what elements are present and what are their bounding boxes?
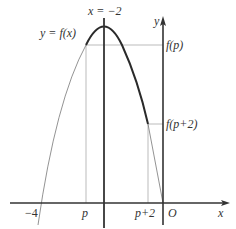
y-axis-label: y	[153, 14, 160, 28]
function-label: y = f(x)	[39, 26, 76, 40]
axis-of-symmetry-label: x = −2	[87, 4, 122, 18]
parabola-diagram: x = −2 y = f(x) y f(p) f(p+2) −4 p p+2 O…	[0, 0, 236, 229]
x-intercept-label: −4	[25, 206, 38, 220]
parabola-bold-segment	[86, 27, 148, 125]
p-label: p	[81, 206, 88, 220]
parabola-thin-left	[38, 45, 86, 225]
origin-label: O	[168, 206, 177, 220]
p-plus-2-label: p+2	[134, 206, 155, 220]
f-p-plus-2-label: f(p+2)	[166, 117, 197, 131]
x-axis-label: x	[217, 206, 224, 220]
f-p-label: f(p)	[166, 38, 183, 52]
parabola-thin-right	[148, 124, 163, 203]
